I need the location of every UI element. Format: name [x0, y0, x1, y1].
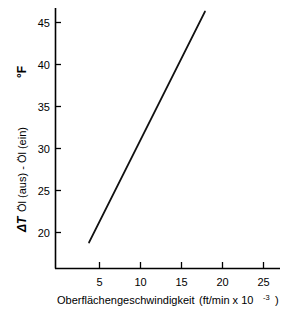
x-tick-label: 5 — [96, 276, 102, 288]
y-tick-label: 20 — [38, 227, 50, 239]
x-axis-title-main: Oberflächengeschwindigkeit — [57, 294, 195, 306]
x-tick-label: 20 — [216, 276, 228, 288]
line-chart: 45 40 35 30 25 20 5 10 15 20 25 Oberfläc… — [0, 0, 284, 318]
x-tick-label: 25 — [257, 276, 269, 288]
chart-container: 45 40 35 30 25 20 5 10 15 20 25 Oberfläc… — [0, 0, 284, 318]
y-tick-label: 35 — [38, 101, 50, 113]
chart-background — [0, 0, 284, 318]
y-axis-title-delta: ΔT — [15, 215, 29, 233]
x-axis-title-units: (ft/min x 10 — [199, 294, 253, 306]
x-tick-label: 15 — [175, 276, 187, 288]
x-tick-label: 10 — [134, 276, 146, 288]
y-tick-label: 40 — [38, 59, 50, 71]
x-axis-title-exponent: -3 — [263, 293, 270, 302]
y-tick-label: 25 — [38, 185, 50, 197]
x-axis-title-close: ) — [275, 294, 279, 306]
y-tick-label: 45 — [38, 17, 50, 29]
x-axis-title: Oberflächengeschwindigkeit (ft/min x 10 … — [57, 293, 279, 306]
y-tick-label: 30 — [38, 143, 50, 155]
y-axis-title-unit: °F — [15, 66, 29, 78]
y-axis-title-main: Öl (aus) - Öl (ein) — [16, 127, 28, 212]
